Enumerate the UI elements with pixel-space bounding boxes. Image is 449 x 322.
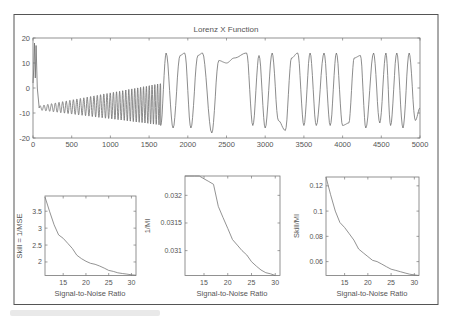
y-tick-label: 0.08 — [309, 233, 323, 240]
x-tick-label: 3500 — [296, 140, 313, 149]
x-tick-label: 20 — [364, 279, 372, 286]
x-tick-label: 20 — [82, 279, 90, 286]
x-tick-label: 4000 — [334, 140, 351, 149]
x-tick-label: 2500 — [218, 140, 235, 149]
subplot-inv-mi-ylabel: 1/MI — [143, 219, 152, 234]
y-tick-label: 0.031 — [164, 247, 182, 254]
x-tick-label: 25 — [105, 279, 113, 286]
subplot-skill-mse-ylabel: Skill = 1/MSE — [15, 214, 24, 259]
x-tick-label: 25 — [248, 279, 256, 286]
x-tick-label: 15 — [341, 279, 349, 286]
x-tick-label: 5000 — [412, 140, 429, 149]
x-tick-label: 500 — [65, 140, 78, 149]
y-tick-label: 3 — [38, 225, 42, 232]
x-tick-label: 15 — [59, 279, 67, 286]
x-tick-label: 20 — [224, 279, 232, 286]
y-tick-label: 20 — [22, 34, 30, 43]
subplot-skill-mi-xlabel: Signal-to-Noise Ratio — [337, 289, 408, 298]
subplot-skill-mi-ylabel: Skill/MI — [292, 214, 301, 238]
x-tick-label: 4500 — [373, 140, 390, 149]
x-tick-label: 30 — [271, 279, 279, 286]
figure-caption-blur — [10, 310, 160, 316]
x-tick-label: 2000 — [179, 140, 196, 149]
x-tick-label: 30 — [410, 279, 418, 286]
y-tick-label: 2 — [38, 258, 42, 265]
x-tick-label: 3000 — [257, 140, 274, 149]
y-tick-label: 0.0315 — [161, 219, 183, 226]
y-tick-label: 3.5 — [32, 208, 42, 215]
x-tick-label: 30 — [128, 279, 136, 286]
y-tick-label: 0.1 — [313, 208, 323, 215]
y-tick-label: -10 — [19, 109, 30, 118]
y-tick-label: 0 — [26, 84, 30, 93]
x-tick-label: 15 — [200, 279, 208, 286]
y-tick-label: 0.12 — [309, 182, 323, 189]
y-tick-label: 0.032 — [164, 192, 182, 199]
x-tick-label: 1500 — [141, 140, 158, 149]
y-tick-label: -20 — [19, 134, 30, 143]
subplot-inv-mi-xlabel: Signal-to-Noise Ratio — [197, 289, 268, 298]
top-plot-title: Lorenz X Function — [194, 25, 259, 34]
y-tick-label: 10 — [22, 59, 30, 68]
x-tick-label: 1000 — [102, 140, 119, 149]
y-tick-label: 0.06 — [309, 258, 323, 265]
y-tick-label: 2.5 — [32, 242, 42, 249]
figure: Lorenz X Function 0500100015002000250030… — [0, 0, 449, 322]
x-tick-label: 0 — [31, 140, 35, 149]
x-tick-label: 25 — [387, 279, 395, 286]
subplot-skill-mse-xlabel: Signal-to-Noise Ratio — [55, 289, 126, 298]
